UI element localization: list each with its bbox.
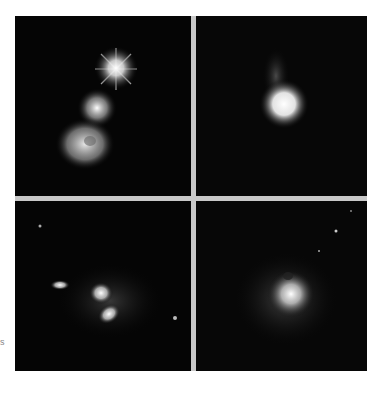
panel-bottom-right — [196, 201, 367, 371]
galaxy-image — [196, 201, 367, 371]
side-label-fragment: s — [0, 337, 5, 347]
galaxy-image — [15, 201, 191, 371]
panel-top-right — [196, 16, 367, 196]
panel-bottom-left — [15, 201, 191, 371]
galaxy-image — [196, 16, 367, 196]
panel-top-left — [15, 16, 191, 196]
galaxy-image — [15, 16, 191, 196]
image-mosaic — [15, 16, 367, 371]
